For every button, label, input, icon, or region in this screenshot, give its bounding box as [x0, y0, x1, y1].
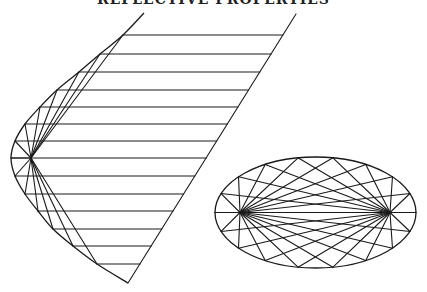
parabola-figure [11, 13, 296, 283]
ellipse-figure [215, 157, 416, 268]
parabola-focal-rays [11, 35, 123, 264]
ellipse-focal-ray [239, 177, 240, 213]
ellipse-focal-ray [390, 213, 410, 232]
ellipse-focal-ray [390, 177, 392, 213]
ellipse-focal-ray [390, 194, 410, 213]
ellipse-focal-rays [215, 158, 416, 267]
reflective-properties-diagram [0, 0, 427, 292]
ellipse-focal-ray [239, 213, 240, 249]
ellipse-focal-ray [221, 194, 240, 213]
ellipse-focal-ray [221, 213, 240, 232]
ellipse-focal-ray [390, 213, 392, 249]
